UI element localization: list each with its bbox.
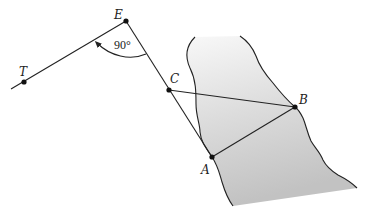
label-e: E bbox=[113, 8, 123, 22]
segment-te bbox=[11, 21, 126, 89]
point-c bbox=[166, 87, 171, 92]
label-c: C bbox=[170, 72, 179, 86]
point-t bbox=[21, 79, 26, 84]
angle-label-90: 90° bbox=[114, 38, 131, 52]
label-t: T bbox=[19, 65, 28, 79]
point-e bbox=[123, 18, 128, 23]
label-b: B bbox=[298, 93, 308, 107]
point-a bbox=[209, 154, 214, 159]
label-a: A bbox=[200, 163, 210, 177]
point-b bbox=[292, 104, 297, 109]
river-survey-diagram: T E C B A 90° bbox=[0, 0, 368, 220]
